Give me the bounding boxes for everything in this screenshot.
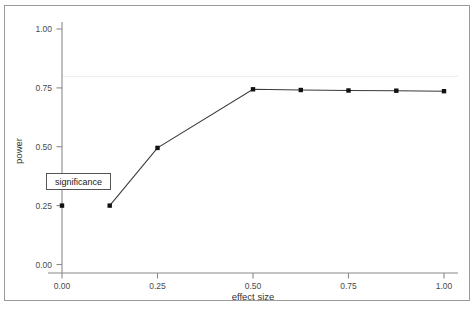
y-tick-label: 1.00 bbox=[35, 24, 52, 34]
data-point-marker bbox=[251, 87, 255, 91]
x-tick-label: 0.00 bbox=[54, 281, 71, 291]
data-point-marker bbox=[299, 88, 303, 92]
data-point-marker bbox=[60, 203, 64, 207]
x-axis-ticks bbox=[62, 273, 444, 279]
y-tick-label: 0.50 bbox=[35, 142, 52, 152]
data-point-marker bbox=[108, 203, 112, 207]
x-tick-label: 0.75 bbox=[340, 281, 357, 291]
x-tick-label: 0.50 bbox=[245, 281, 262, 291]
power-curve-chart: 1.00 0.75 0.50 0.25 0.00 0.00 0.25 0.50 … bbox=[0, 0, 476, 311]
data-point-marker bbox=[394, 89, 398, 93]
data-point-marker bbox=[155, 146, 159, 150]
x-axis-tick-labels: 0.00 0.25 0.50 0.75 1.00 bbox=[54, 281, 453, 291]
power-curve-line bbox=[110, 89, 444, 205]
y-axis-ticks bbox=[57, 29, 63, 265]
data-point-marker bbox=[442, 89, 446, 93]
x-tick-label: 1.00 bbox=[436, 281, 453, 291]
significance-annotation: significance bbox=[47, 174, 111, 190]
x-axis-title: effect size bbox=[232, 291, 275, 302]
y-tick-label: 0.00 bbox=[35, 260, 52, 270]
y-axis-tick-labels: 1.00 0.75 0.50 0.25 0.00 bbox=[35, 24, 52, 270]
y-axis-title: power bbox=[13, 138, 24, 164]
x-tick-label: 0.25 bbox=[149, 281, 166, 291]
power-analysis-figure: 1.00 0.75 0.50 0.25 0.00 0.00 0.25 0.50 … bbox=[0, 0, 476, 311]
y-tick-label: 0.75 bbox=[35, 83, 52, 93]
significance-annotation-label: significance bbox=[55, 177, 102, 187]
y-tick-label: 0.25 bbox=[35, 201, 52, 211]
data-point-marker bbox=[346, 88, 350, 92]
power-curve-markers bbox=[60, 87, 446, 208]
